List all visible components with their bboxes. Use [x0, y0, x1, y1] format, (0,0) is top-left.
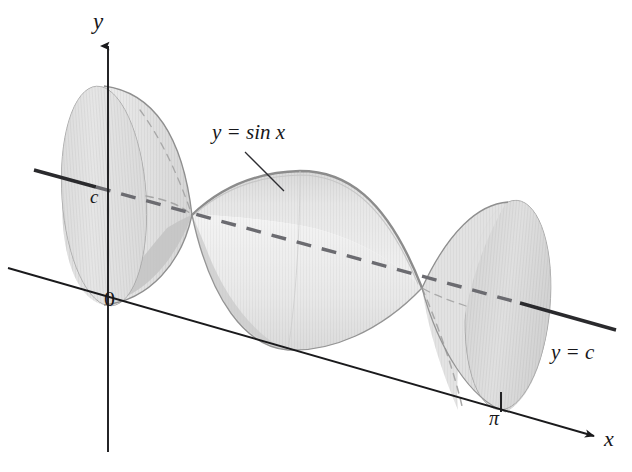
surface-lobe-right [422, 197, 559, 414]
sin-curve-label: y = sin x [212, 122, 285, 143]
y-axis-label: y [93, 10, 103, 33]
pi-tick-label: π [489, 408, 499, 428]
origin-label: 0 [104, 288, 115, 310]
revolution-axis-label: y = c [551, 342, 594, 363]
x-axis-label: x [604, 428, 614, 450]
c-level-label: c [90, 187, 98, 206]
figure-canvas: y c 0 y = sin x y = c π x [0, 0, 632, 472]
surface-lobe-middle [192, 171, 422, 350]
solid-of-revolution-illustration [0, 0, 632, 472]
